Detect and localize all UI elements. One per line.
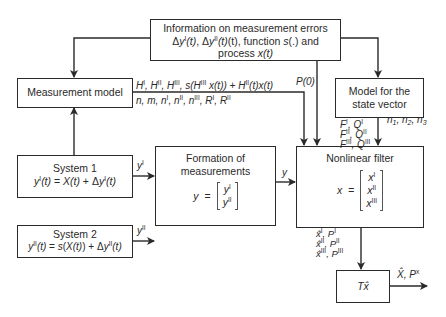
label-yI: yI	[137, 160, 144, 172]
system2-block: System 2 yII(t) = s(X(t)) + ΔyII(t)	[17, 225, 133, 258]
formation-title-1: Formation of	[156, 152, 275, 165]
label-n-r-params: n, m, nI, nII, nIII, RI, RII	[136, 95, 231, 107]
formation-vector: y = yI yII	[193, 182, 237, 210]
label-n123: n1, n2, n3	[387, 114, 427, 126]
filter-title: Nonlinear filter	[297, 152, 423, 165]
label-h-matrices: HI, HII, HIII, s(HIII x(t)) + HII(t)x(t)	[136, 80, 273, 92]
edge-info-to-state-model	[340, 38, 378, 77]
info-line1: Information on measurement errors	[151, 22, 340, 35]
transform-label: Tx̂	[357, 280, 369, 292]
system1-block: System 1 yI(t) = X(t) + ΔyI(t)	[17, 155, 133, 198]
system1-equation: yI(t) = X(t) + ΔyI(t)	[18, 175, 132, 188]
formation-title-2: measurements	[156, 165, 275, 178]
system2-equation: yII(t) = s(X(t)) + ΔyII(t)	[18, 241, 132, 254]
label-yII: yII	[137, 225, 146, 237]
system1-title: System 1	[18, 162, 132, 175]
state-model-line1: Model for the	[336, 85, 423, 98]
label-y: y	[282, 167, 287, 179]
state-model-line2: state vector	[336, 98, 423, 111]
edge-info-to-measurement-model	[74, 38, 150, 77]
label-p0: P(0)	[296, 76, 315, 88]
label-estimates: x̂I, PI x̂II, PII x̂III, PIII	[316, 229, 343, 259]
info-line3: process x(t)	[151, 47, 340, 60]
transform-block: Tx̂	[336, 270, 390, 303]
info-line2: ΔyI(t), ΔyII(t)(t), function s(.) and	[151, 35, 340, 48]
nonlinear-filter-block: Nonlinear filter x = xI xII xIII	[296, 146, 424, 228]
state-model-block: Model for the state vector	[335, 78, 424, 118]
measurement-model-label: Measurement model	[27, 86, 123, 98]
label-fq: FI, QI FII, QII FIII, QIII	[340, 120, 370, 150]
measurement-model-block: Measurement model	[17, 78, 133, 108]
formation-block: Formation of measurements y = yI yII	[155, 146, 276, 226]
label-output: X̂, Px	[397, 269, 419, 281]
filter-state-vector: x = xI xII xIII	[337, 170, 383, 211]
info-block: Information on measurement errors ΔyI(t)…	[150, 19, 341, 61]
